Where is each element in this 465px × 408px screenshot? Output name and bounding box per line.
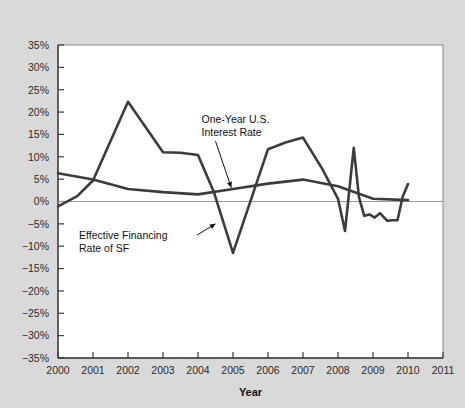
y-tick-label: −15% xyxy=(22,262,49,274)
x-tick-label: 2006 xyxy=(256,364,280,376)
x-tick-label: 2002 xyxy=(116,364,140,376)
x-tick-label: 2010 xyxy=(396,364,420,376)
x-tick-label: 2011 xyxy=(432,364,455,376)
y-tick-label: 25% xyxy=(28,84,49,96)
chart-figure: 35%30%25%20%15%10%5%0%−5%−10%−15%−20%−25… xyxy=(0,0,465,408)
annotation-label: One-Year U.S. xyxy=(202,113,270,125)
annotation-label: Interest Rate xyxy=(202,126,262,138)
y-tick-label: −5% xyxy=(28,218,49,230)
y-tick-label: −20% xyxy=(22,285,49,297)
line-chart: 35%30%25%20%15%10%5%0%−5%−10%−15%−20%−25… xyxy=(0,0,465,408)
x-tick-label: 2005 xyxy=(221,364,245,376)
y-tick-label: −30% xyxy=(22,329,49,341)
y-tick-label: 0% xyxy=(34,195,49,207)
annotation-label: Effective Financing xyxy=(79,229,168,241)
y-tick-label: 30% xyxy=(28,61,49,73)
y-tick-label: −35% xyxy=(22,352,49,364)
y-tick-label: 10% xyxy=(28,151,49,163)
x-tick-label: 2004 xyxy=(186,364,210,376)
y-tick-label: 35% xyxy=(28,39,49,51)
x-tick-label: 2007 xyxy=(291,364,315,376)
x-tick-label: 2003 xyxy=(151,364,175,376)
y-tick-label: −10% xyxy=(22,240,49,252)
y-tick-label: 20% xyxy=(28,106,49,118)
x-tick-label: 2000 xyxy=(46,364,70,376)
y-tick-label: 5% xyxy=(34,173,49,185)
y-tick-label: 15% xyxy=(28,128,49,140)
x-tick-label: 2009 xyxy=(361,364,385,376)
x-tick-label: 2008 xyxy=(326,364,350,376)
x-tick-label: 2001 xyxy=(81,364,105,376)
annotation-label: Rate of SF xyxy=(79,242,129,254)
y-tick-label: −25% xyxy=(22,307,49,319)
x-axis-title: Year xyxy=(239,386,263,398)
